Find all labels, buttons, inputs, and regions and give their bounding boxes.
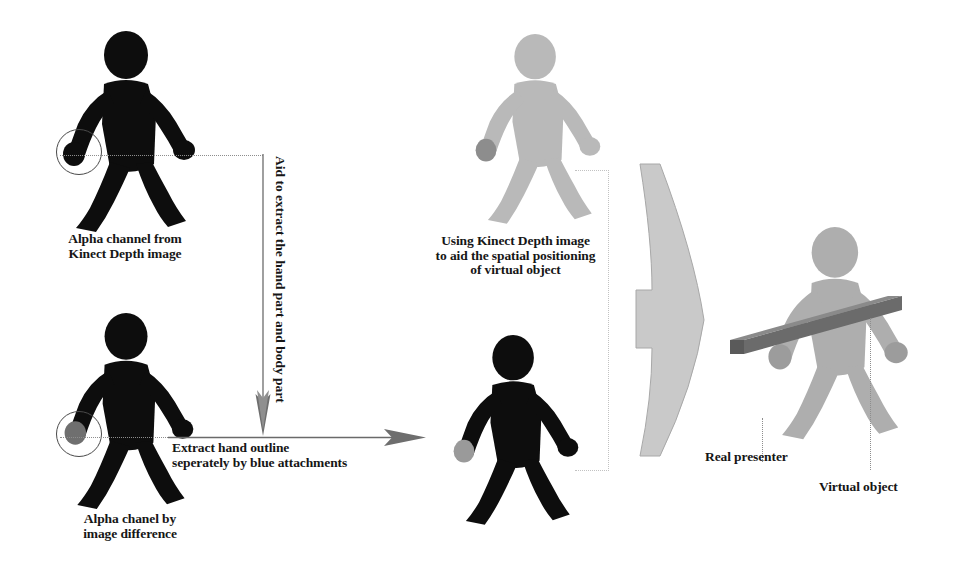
caption-alpha-difference-line2: image difference: [30, 527, 230, 542]
figure-silhouette-svg: [452, 28, 622, 228]
left-hand-shape: [476, 139, 497, 162]
figure-silhouette-svg: [430, 330, 600, 528]
caption-alpha-depth-line1: Alpha channel from: [30, 232, 220, 247]
caption-extract-hand: Extract hand outline seperately by blue …: [172, 441, 422, 470]
caption-kinect-depth-usage: Using Kinect Depth image to aid the spat…: [408, 234, 623, 278]
caption-alpha-depth: Alpha channel from Kinect Depth image: [30, 232, 220, 261]
head-shape: [514, 34, 556, 79]
head-shape: [105, 313, 148, 360]
bracket-line-top: [575, 170, 609, 171]
left-hand-shape: [454, 440, 475, 463]
caption-alpha-depth-line2: Kinect Depth image: [30, 247, 220, 262]
kinect-depth-gray-figure: [452, 28, 632, 228]
leader-line-virtual-object: [870, 318, 871, 470]
bar-front-face: [730, 296, 902, 354]
composition-block-arrow: [630, 160, 740, 460]
bracket-line-side: [608, 170, 609, 471]
leader-line-bottom-left: [60, 437, 170, 438]
right-leg-shape: [523, 459, 570, 520]
caption-alpha-difference: Alpha chanel by image difference: [30, 512, 230, 541]
right-leg-shape: [845, 365, 898, 434]
caption-kinect-depth-line1: Using Kinect Depth image: [408, 234, 623, 249]
left-leg-shape: [782, 365, 839, 439]
hand-highlight-circle: [56, 411, 102, 457]
right-hand-shape: [580, 137, 601, 156]
caption-alpha-difference-line1: Alpha chanel by: [30, 512, 230, 527]
caption-extract-hand-line2: seperately by blue attachments: [172, 456, 422, 471]
head-shape: [492, 335, 534, 380]
caption-extract-hand-line1: Extract hand outline: [172, 441, 422, 456]
label-virtual-object: Virtual object: [819, 480, 961, 495]
virtual-object-bar: [726, 278, 906, 358]
figure-silhouette-svg: [38, 28, 218, 233]
alpha-channel-difference-figure: [38, 310, 218, 510]
diagram-canvas: Alpha channel from Kinect Depth image Ai…: [0, 0, 961, 564]
hand-highlight-circle: [56, 129, 102, 175]
right-leg-shape: [545, 158, 592, 219]
head-shape: [104, 31, 148, 79]
figure-silhouette-svg: [38, 310, 218, 510]
bracket-line-bottom: [575, 470, 609, 471]
head-shape: [812, 227, 858, 278]
right-hand-shape: [173, 140, 195, 160]
caption-kinect-depth-line2: to aid the spatial positioning: [408, 249, 623, 264]
extracted-silhouette-figure: [430, 330, 610, 530]
vertical-arrow-label: Aid to extract the hand part and body pa…: [272, 156, 288, 403]
right-leg-shape: [136, 162, 186, 227]
label-real-presenter: Real presenter: [705, 450, 855, 465]
left-leg-shape: [466, 459, 517, 525]
leader-line-top-left: [60, 155, 263, 156]
alpha-channel-depth-figure: [38, 28, 218, 233]
bar-end-cap: [730, 340, 744, 354]
left-leg-shape: [488, 158, 539, 224]
caption-kinect-depth-line3: of virtual object: [408, 263, 623, 278]
right-hand-shape: [558, 438, 579, 457]
